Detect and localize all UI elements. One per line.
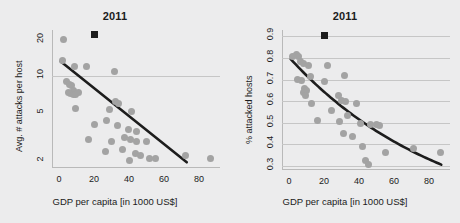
scatter-point [376,122,383,129]
x-tick-label: 0 [286,176,291,186]
scatter-point [59,57,66,64]
x-tick-label: 40 [354,176,364,186]
scatter-point [298,77,305,84]
gridline [282,58,450,59]
gridline [52,76,220,77]
scatter-point [382,149,389,156]
y-tick-label: 10 [30,69,50,79]
axes-frame-left [52,30,220,168]
y-axis-label-left: Avg. # attacks per host [14,61,24,152]
x-axis-label-right: GDP per capita [in 1000 US$] [230,196,460,207]
axes-frame-right [282,30,450,170]
x-tick-label: 60 [159,174,169,184]
x-tick-label: 0 [56,174,61,184]
scatter-point [119,146,126,153]
scatter-point [344,112,351,119]
y-tick-label: 5 [30,106,50,116]
annotation-square-marker [321,32,328,39]
scatter-point [91,121,98,128]
scatter-point [143,138,150,145]
panel-avg-attacks-per-host: 2011 Avg. # attacks per host 251020 0204… [0,0,230,223]
two-panel-scatter-figure: 2011 Avg. # attacks per host 251020 0204… [0,0,460,223]
x-tick-label: 80 [424,176,434,186]
plot-area-left [52,30,220,168]
plot-area-right [282,30,450,170]
scatter-point [342,98,349,105]
gridline [282,36,450,37]
y-axis-label-right: % attacked hosts [244,75,254,144]
y-tick-label: 0.3 [260,159,280,169]
annotation-square-marker [91,31,98,38]
scatter-point [83,63,90,70]
scatter-point [103,117,110,124]
scatter-point [60,36,67,43]
y-tick-label: 20 [30,33,50,43]
scatter-point [133,128,140,135]
panel-title-right: 2011 [230,10,460,22]
gridline [282,80,450,81]
panel-percent-attacked-hosts: 2011 % attacked hosts 0.30.40.50.60.70.8… [230,0,460,223]
x-tick-label: 60 [389,176,399,186]
y-tick-label: 0.7 [260,73,280,83]
gridline [282,101,450,102]
scatter-point [152,155,159,162]
gridline [282,144,450,145]
scatter-point [324,62,331,69]
y-tick-label: 0.6 [260,94,280,104]
scatter-point [108,138,115,145]
scatter-point [359,143,366,150]
scatter-point [111,68,118,75]
scatter-point [410,145,417,152]
scatter-point [308,100,315,107]
x-tick-label: 80 [194,174,204,184]
x-tick-label: 40 [124,174,134,184]
panel-title-left: 2011 [0,10,230,22]
y-tick-label: 0.9 [260,29,280,39]
scatter-point [75,89,82,96]
scatter-point [307,73,314,80]
gridline [282,123,450,124]
scatter-point [207,155,214,162]
scatter-point [321,78,328,85]
y-tick-label: 0.8 [260,51,280,61]
x-tick-label: 20 [319,176,329,186]
y-tick-label: 0.4 [260,137,280,147]
scatter-point [182,152,189,159]
y-tick-label: 2 [30,154,50,164]
scatter-point [102,148,109,155]
scatter-point [341,72,348,79]
scatter-point [115,100,122,107]
scatter-point [305,62,312,69]
scatter-point [353,100,360,107]
scatter-point [340,130,347,137]
x-tick-label: 20 [89,174,99,184]
x-axis-label-left: GDP per capita [in 1000 US$] [0,196,230,207]
y-tick-label: 0.5 [260,116,280,126]
